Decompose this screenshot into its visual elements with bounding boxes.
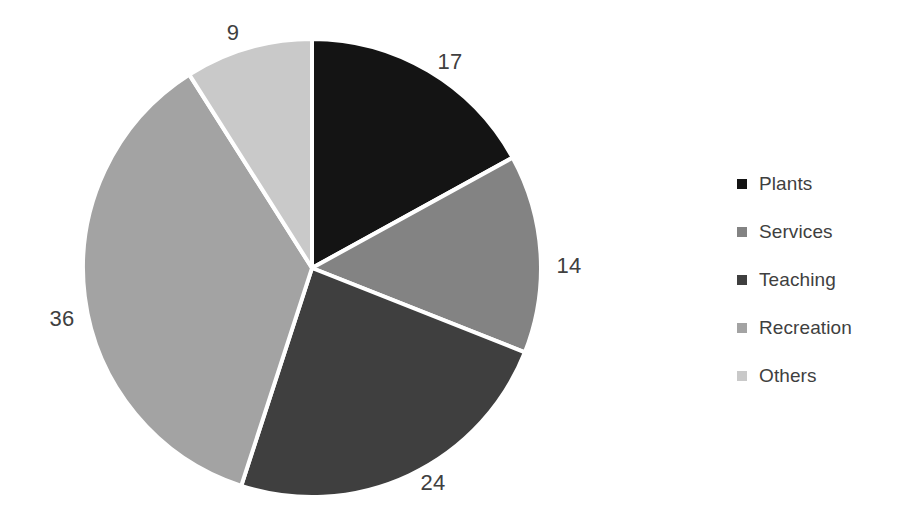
legend-swatch-icon — [737, 323, 747, 333]
legend-swatch-icon — [737, 371, 747, 381]
legend-swatch-icon — [737, 275, 747, 285]
data-label-recreation: 36 — [50, 306, 75, 332]
legend-item-plants[interactable]: Plants — [737, 160, 897, 208]
legend-label: Plants — [759, 173, 812, 195]
legend-swatch-icon — [737, 179, 747, 189]
chart-legend: PlantsServicesTeachingRecreationOthers — [737, 160, 897, 400]
data-label-services: 14 — [557, 253, 582, 279]
legend-item-teaching[interactable]: Teaching — [737, 256, 897, 304]
pie-slices-group — [83, 39, 541, 497]
legend-label: Teaching — [759, 269, 836, 291]
legend-label: Services — [759, 221, 833, 243]
legend-item-services[interactable]: Services — [737, 208, 897, 256]
data-label-others: 9 — [227, 20, 239, 46]
data-label-plants: 17 — [438, 49, 463, 75]
legend-label: Recreation — [759, 317, 852, 339]
data-label-teaching: 24 — [421, 470, 446, 496]
legend-label: Others — [759, 365, 817, 387]
pie-chart: 171424369 PlantsServicesTeachingRecreati… — [0, 0, 904, 523]
legend-swatch-icon — [737, 227, 747, 237]
legend-item-recreation[interactable]: Recreation — [737, 304, 897, 352]
legend-item-others[interactable]: Others — [737, 352, 897, 400]
